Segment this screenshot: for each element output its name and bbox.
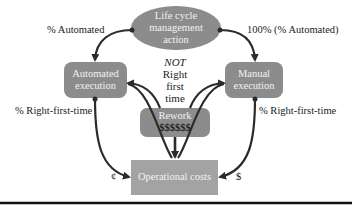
automated-label: Automated execution xyxy=(64,68,127,92)
edge-dot xyxy=(93,97,98,102)
lifecycle-line-3: action xyxy=(131,34,221,46)
edge-manual-operational xyxy=(220,99,255,177)
note-time: time xyxy=(150,92,200,104)
lifecycle-label: Life cycle management action xyxy=(131,10,221,46)
lifecycle-line-2: management xyxy=(131,22,221,34)
automated-line-1: Automated xyxy=(64,68,127,80)
label-cost-right: $ xyxy=(236,171,241,182)
manual-label: Manual execution xyxy=(225,68,283,92)
lifecycle-line-1: Life cycle xyxy=(131,10,221,22)
rework-cost: $$$$$$ xyxy=(140,122,210,134)
note-not: NOT xyxy=(150,56,200,68)
not-right-first-time-note: NOT Right first time xyxy=(150,56,200,104)
label-rft-left: % Right-first-time xyxy=(15,105,92,116)
label-pct-manual: 100% (% Automated) xyxy=(247,24,339,35)
manual-line-1: Manual xyxy=(225,68,283,80)
edge-dot xyxy=(253,97,258,102)
rework-line-1: Rework xyxy=(140,110,210,122)
automated-line-2: execution xyxy=(64,80,127,92)
label-cost-left: ¢ xyxy=(111,171,116,182)
operational-label: Operational costs xyxy=(131,171,218,183)
label-rft-right: % Right-first-time xyxy=(259,105,336,116)
note-first: first xyxy=(150,80,200,92)
label-pct-automated: % Automated xyxy=(47,24,104,35)
edge-automated-operational xyxy=(95,99,129,177)
note-right: Right xyxy=(150,68,200,80)
rework-label: Rework $$$$$$ xyxy=(140,110,210,134)
manual-line-2: execution xyxy=(225,80,283,92)
